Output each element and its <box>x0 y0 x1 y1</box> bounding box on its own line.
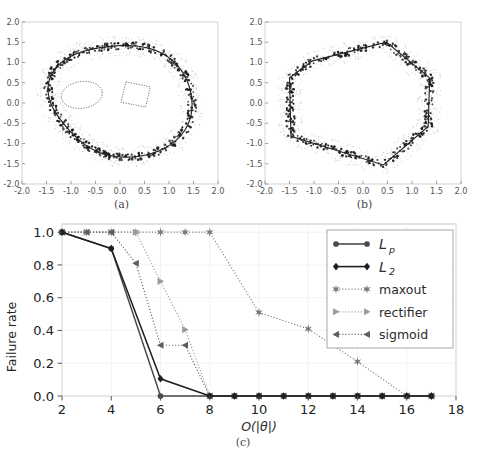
svg-text:0.5: 0.5 <box>381 186 394 196</box>
svg-text:-1.0: -1.0 <box>247 138 263 148</box>
scatter-plot-b: -2.0-1.5-1.0-0.50.00.51.01.52.0 -2.0-1.5… <box>243 0 486 200</box>
svg-text:-2.0: -2.0 <box>247 179 263 189</box>
svg-text:maxout: maxout <box>379 282 426 297</box>
svg-text:2.0: 2.0 <box>249 17 262 27</box>
panel-caption-c: (c) <box>0 436 486 449</box>
svg-text:1.0: 1.0 <box>162 186 175 196</box>
svg-text:-1.0: -1.0 <box>63 186 79 196</box>
chart-y-axis-label: Failure rate <box>4 301 19 372</box>
svg-text:16: 16 <box>398 402 415 417</box>
svg-text:1.0: 1.0 <box>405 186 418 196</box>
svg-text:-2.0: -2.0 <box>4 179 20 189</box>
svg-text:1.5: 1.5 <box>6 37 19 47</box>
panel-caption-b: (b) <box>243 198 486 211</box>
figure-root: -2.0-1.5-1.0-0.50.00.51.01.52.0 -2.0-1.5… <box>0 0 486 468</box>
chart-x-ticks: 24681012141618 <box>58 396 464 417</box>
svg-text:L: L <box>379 236 387 252</box>
svg-text:-1.0: -1.0 <box>306 186 322 196</box>
svg-text:0.2: 0.2 <box>33 356 54 371</box>
svg-text:8: 8 <box>206 402 214 417</box>
svg-text:0.0: 0.0 <box>33 389 54 404</box>
scatter-plot-a: -2.0-1.5-1.0-0.50.00.51.01.52.0 -2.0-1.5… <box>0 0 243 200</box>
panel-b: -2.0-1.5-1.0-0.50.00.51.01.52.0 -2.0-1.5… <box>243 0 486 212</box>
svg-text:0.5: 0.5 <box>249 78 262 88</box>
svg-text:-1.5: -1.5 <box>282 186 298 196</box>
svg-text:12: 12 <box>300 402 317 417</box>
svg-text:L: L <box>379 259 387 275</box>
svg-text:0.0: 0.0 <box>6 98 19 108</box>
svg-text:1.5: 1.5 <box>187 186 200 196</box>
svg-text:sigmoid: sigmoid <box>379 327 428 342</box>
panel-caption-a: (a) <box>0 198 243 211</box>
svg-text:0.0: 0.0 <box>113 186 126 196</box>
svg-text:4: 4 <box>107 402 115 417</box>
svg-text:2.0: 2.0 <box>454 186 467 196</box>
svg-text:O(|θ|): O(|θ|) <box>241 419 277 434</box>
svg-text:2.0: 2.0 <box>6 17 19 27</box>
failure-rate-chart: 24681012141618 0.00.20.40.60.81.0 Failur… <box>0 212 486 452</box>
svg-text:0.6: 0.6 <box>33 290 54 305</box>
svg-text:-0.5: -0.5 <box>88 186 104 196</box>
svg-text:p: p <box>388 244 395 255</box>
svg-text:1.0: 1.0 <box>249 57 262 67</box>
svg-text:0.8: 0.8 <box>33 258 54 273</box>
svg-text:-1.0: -1.0 <box>4 138 20 148</box>
svg-text:1.5: 1.5 <box>249 37 262 47</box>
panel-a: -2.0-1.5-1.0-0.50.00.51.01.52.0 -2.0-1.5… <box>0 0 243 212</box>
panel-c: 24681012141618 0.00.20.40.60.81.0 Failur… <box>0 212 486 468</box>
svg-text:-1.5: -1.5 <box>247 159 263 169</box>
svg-text:10: 10 <box>251 402 268 417</box>
svg-text:rectifier: rectifier <box>379 305 428 320</box>
svg-text:-0.5: -0.5 <box>4 118 20 128</box>
svg-text:0.5: 0.5 <box>6 78 19 88</box>
svg-text:2.0: 2.0 <box>211 186 224 196</box>
svg-text:-0.5: -0.5 <box>331 186 347 196</box>
svg-text:1.5: 1.5 <box>430 186 443 196</box>
svg-text:-1.5: -1.5 <box>39 186 55 196</box>
svg-text:14: 14 <box>349 402 366 417</box>
chart-x-axis-label: O(|θ|) <box>241 419 277 434</box>
svg-text:0.5: 0.5 <box>138 186 151 196</box>
svg-text:2: 2 <box>58 402 66 417</box>
svg-text:18: 18 <box>448 402 465 417</box>
svg-text:-0.5: -0.5 <box>247 118 263 128</box>
svg-text:0.4: 0.4 <box>33 323 54 338</box>
svg-text:1.0: 1.0 <box>6 57 19 67</box>
svg-text:1.0: 1.0 <box>33 225 54 240</box>
svg-text:-1.5: -1.5 <box>4 159 20 169</box>
svg-text:0.0: 0.0 <box>249 98 262 108</box>
svg-text:6: 6 <box>156 402 164 417</box>
plot-frame-b <box>265 22 461 184</box>
svg-text:2: 2 <box>389 266 395 277</box>
chart-y-ticks: 0.00.20.40.60.81.0 <box>33 225 62 404</box>
svg-text:0.0: 0.0 <box>356 186 369 196</box>
chart-legend: LpL2maxoutrectifiersigmoid <box>327 230 453 348</box>
